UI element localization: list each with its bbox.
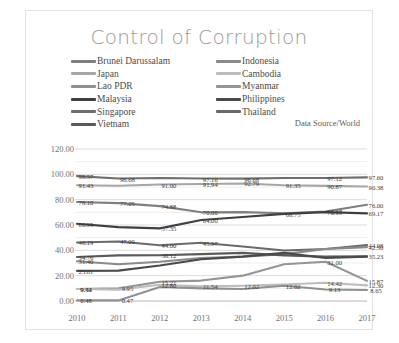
series-line	[77, 212, 367, 228]
data-point-label: 70.19	[327, 209, 342, 216]
plot-area: 0.0020.0040.0060.0080.00100.00120.00 98.…	[27, 143, 373, 329]
legend-item-myanmar[interactable]: Myanmar	[216, 80, 285, 93]
chart-title: Control of Corruption	[26, 25, 372, 49]
data-point-label: 98.57	[79, 173, 94, 180]
legend-swatch-icon	[71, 85, 96, 88]
data-point-label: 9.95	[122, 285, 134, 292]
data-point-label: 91.35	[286, 182, 301, 189]
data-source-note: Data Source/World	[295, 118, 360, 128]
legend-item-cambodia[interactable]: Cambodia	[216, 68, 285, 81]
data-point-label: 91.00	[161, 181, 176, 188]
data-point-label: 8.65	[370, 287, 382, 294]
chart-card: Control of Corruption Brunei DarussalamJ…	[25, 10, 373, 330]
data-point-label: 97.12	[327, 174, 342, 181]
data-point-label: 0.48	[80, 297, 92, 304]
data-point-label: 90.38	[369, 183, 384, 190]
x-axis-tick: 2013	[193, 313, 210, 323]
data-point-label: 9.13	[329, 286, 341, 293]
data-point-label: 45.97	[203, 239, 218, 246]
data-point-label: 35.23	[369, 253, 384, 260]
x-axis-tick: 2014	[234, 313, 251, 323]
data-point-label: 9.44	[80, 286, 92, 293]
legend-column-1: Brunei DarussalamJapanLao PDRMalaysiaSin…	[71, 55, 170, 131]
data-point-label: 91.94	[203, 180, 218, 187]
data-point-label: 31.00	[327, 258, 342, 265]
legend-swatch-icon	[71, 98, 96, 101]
legend-column-2: IndonesiaCambodiaMyanmarPhilippinesThail…	[216, 55, 285, 118]
x-axis-tick: 2015	[276, 313, 293, 323]
legend-swatch-icon	[216, 72, 241, 75]
data-point-label: 64.00	[203, 216, 218, 223]
series-line	[77, 183, 367, 186]
data-point-label: 12.80	[161, 281, 176, 288]
legend-label: Thailand	[242, 107, 276, 117]
x-axis-tick: 2016	[317, 313, 334, 323]
legend-swatch-icon	[216, 98, 241, 101]
legend-item-brunei-darussalam[interactable]: Brunei Darussalam	[71, 55, 170, 68]
legend-label: Japan	[97, 69, 119, 79]
data-point-label: 68.75	[286, 210, 301, 217]
legend-label: Philippines	[242, 94, 285, 104]
x-axis-tick: 2010	[69, 313, 86, 323]
data-point-label: 96.68	[120, 175, 135, 182]
x-axis: 20102011201220132014201520162017	[27, 313, 373, 327]
data-point-label: 57.35	[161, 225, 176, 232]
data-point-label: 11.54	[203, 283, 218, 290]
legend-item-indonesia[interactable]: Indonesia	[216, 55, 285, 68]
data-point-label: 77.25	[120, 200, 135, 207]
data-point-label: 91.43	[79, 182, 94, 189]
data-point-label: 76.00	[369, 201, 384, 208]
x-axis-tick: 2017	[359, 313, 376, 323]
data-point-label: 70.00	[203, 209, 218, 216]
data-point-label: 92.79	[244, 180, 259, 187]
legend-swatch-icon	[216, 110, 241, 113]
x-axis-tick: 2012	[151, 313, 168, 323]
legend-swatch-icon	[71, 123, 96, 126]
legend-swatch-icon	[216, 60, 241, 63]
legend-label: Vietnam	[97, 119, 129, 129]
legend-label: Cambodia	[242, 69, 281, 79]
legend-label: Malaysia	[97, 94, 132, 104]
data-point-label: 0.47	[122, 297, 134, 304]
data-point-label: 46.19	[79, 239, 94, 246]
data-point-label: 42.50	[369, 244, 384, 251]
data-point-label: 74.88	[161, 203, 176, 210]
data-point-label: 34.76	[79, 253, 94, 260]
legend-item-japan[interactable]: Japan	[71, 68, 170, 81]
data-point-label: 36.12	[161, 252, 176, 259]
legend-swatch-icon	[216, 85, 241, 88]
legend-label: Singapore	[97, 107, 136, 117]
legend-item-singapore[interactable]: Singapore	[71, 105, 170, 118]
data-point-label: 44.00	[161, 242, 176, 249]
legend-item-vietnam[interactable]: Vietnam	[71, 118, 170, 131]
legend-item-lao-pdr[interactable]: Lao PDR	[71, 80, 170, 93]
data-point-label: 69.17	[369, 210, 384, 217]
legend-label: Brunei Darussalam	[97, 56, 170, 66]
legend-swatch-icon	[71, 110, 96, 113]
x-axis-tick: 2011	[110, 313, 127, 323]
chart-lines	[27, 143, 373, 329]
data-point-label: 60.95	[79, 220, 94, 227]
legend-label: Indonesia	[242, 56, 279, 66]
legend-label: Myanmar	[242, 81, 279, 91]
data-point-label: 97.60	[369, 174, 384, 181]
data-point-label: 47.00	[120, 238, 135, 245]
legend-item-malaysia[interactable]: Malaysia	[71, 93, 170, 106]
legend-item-philippines[interactable]: Philippines	[216, 93, 285, 106]
data-point-label: 78.10	[79, 199, 94, 206]
legend-swatch-icon	[71, 60, 96, 63]
legend-item-thailand[interactable]: Thailand	[216, 105, 285, 118]
data-point-label: 12.02	[286, 282, 301, 289]
data-point-label: 23.81	[79, 267, 94, 274]
legend-label: Lao PDR	[97, 81, 133, 91]
legend-swatch-icon	[71, 72, 96, 75]
data-point-label: 90.87	[327, 182, 342, 189]
data-point-label: 12.02	[244, 282, 259, 289]
